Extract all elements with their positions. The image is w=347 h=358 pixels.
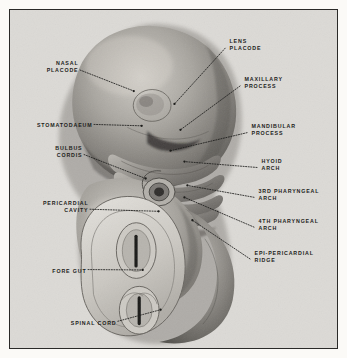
- label-4th-pharyngeal-arch-line-1: ARCH: [259, 225, 319, 232]
- leader-dot-nasal-placode: [133, 90, 135, 92]
- label-mandibular-process-line-1: PROCESS: [252, 130, 296, 137]
- label-pericardial-cavity-line-1: CAVITY: [43, 207, 89, 214]
- label-lens-placode-line-0: LENS: [230, 38, 262, 45]
- label-fore-gut-line-0: FORE GUT: [52, 268, 86, 275]
- label-lens-placode: LENSPLACODE: [230, 38, 262, 53]
- label-maxillary-process: MAXILLARYPROCESS: [245, 76, 283, 91]
- label-lens-placode-line-1: PLACODE: [230, 45, 262, 52]
- label-hyoid-arch-line-1: ARCH: [262, 165, 283, 172]
- label-stomatodaeum: STOMATODAEUM: [37, 122, 93, 129]
- label-stomatodaeum-line-0: STOMATODAEUM: [37, 122, 93, 129]
- label-bulbus-cordis-line-0: BULBUS: [55, 145, 82, 152]
- leader-dot-maxillary-process: [179, 129, 181, 131]
- leader-dot-stomatodaeum: [141, 125, 143, 127]
- label-maxillary-process-line-0: MAXILLARY: [245, 76, 283, 83]
- label-pericardial-cavity-line-0: PERICARDIAL: [43, 200, 89, 207]
- leader-dot-mandibular-process: [169, 150, 171, 152]
- label-3rd-pharyngeal-arch-line-1: ARCH: [259, 195, 320, 202]
- label-4th-pharyngeal-arch-line-0: 4TH PHARYNGEAL: [259, 218, 319, 225]
- leader-dot-4th-pharyngeal-arch: [183, 196, 185, 198]
- leader-dot-lens-placode: [173, 103, 175, 105]
- label-mandibular-process: MANDIBULARPROCESS: [252, 123, 296, 138]
- leader-dot-bulbus-cordis: [145, 177, 147, 179]
- label-epi-pericardial-ridge-line-0: EPI-PERICARDIAL: [255, 250, 314, 257]
- label-maxillary-process-line-1: PROCESS: [245, 83, 283, 90]
- label-mandibular-process-line-0: MANDIBULAR: [252, 123, 296, 130]
- label-3rd-pharyngeal-arch-line-0: 3RD PHARYNGEAL: [259, 188, 320, 195]
- label-bulbus-cordis: BULBUSCORDIS: [55, 145, 82, 160]
- label-4th-pharyngeal-arch: 4TH PHARYNGEALARCH: [259, 218, 319, 233]
- plate-frame: NASALPLACODESTOMATODAEUMBULBUSCORDISPERI…: [9, 9, 338, 349]
- leader-dot-fore-gut: [142, 269, 144, 271]
- label-3rd-pharyngeal-arch: 3RD PHARYNGEALARCH: [259, 188, 320, 203]
- leader-dot-spinal-cord: [159, 309, 161, 311]
- label-epi-pericardial-ridge: EPI-PERICARDIALRIDGE: [255, 250, 314, 265]
- label-nasal-placode-line-0: NASAL: [47, 60, 79, 67]
- label-hyoid-arch: HYOIDARCH: [262, 158, 283, 173]
- label-nasal-placode: NASALPLACODE: [47, 60, 79, 75]
- label-hyoid-arch-line-0: HYOID: [262, 158, 283, 165]
- leader-dot-epi-pericardial-ridge: [191, 219, 193, 221]
- label-spinal-cord: SPINAL CORD: [71, 320, 117, 327]
- label-spinal-cord-line-0: SPINAL CORD: [71, 320, 117, 327]
- label-pericardial-cavity: PERICARDIALCAVITY: [43, 200, 89, 215]
- label-bulbus-cordis-line-1: CORDIS: [55, 152, 82, 159]
- leader-dot-3rd-pharyngeal-arch: [186, 184, 188, 186]
- leader-dot-hyoid-arch: [183, 160, 185, 162]
- label-epi-pericardial-ridge-line-1: RIDGE: [255, 257, 314, 264]
- label-fore-gut: FORE GUT: [52, 268, 86, 275]
- label-nasal-placode-line-1: PLACODE: [47, 67, 79, 74]
- leader-dot-pericardial-cavity: [157, 210, 159, 212]
- embryology-plate: NASALPLACODESTOMATODAEUMBULBUSCORDISPERI…: [0, 0, 347, 358]
